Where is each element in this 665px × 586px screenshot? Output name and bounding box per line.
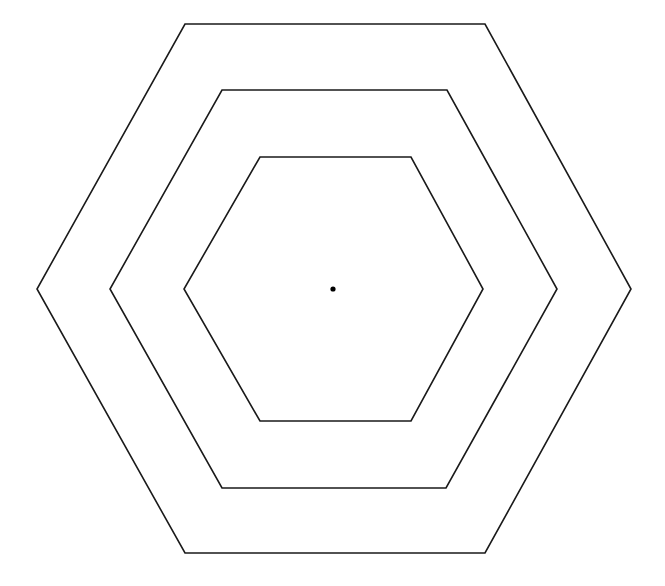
concentric-hexagon-diagram: [0, 0, 665, 586]
center-point-dot: [330, 286, 335, 291]
